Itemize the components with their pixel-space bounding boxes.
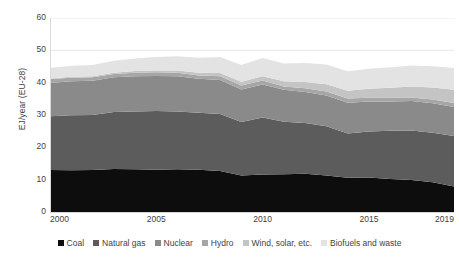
x-tick-label: 2019: [434, 214, 454, 224]
legend-item[interactable]: Biofuels and waste: [321, 238, 401, 248]
y-tick-label: 50: [2, 45, 46, 54]
legend-label: Natural gas: [102, 238, 145, 248]
legend-item[interactable]: Natural gas: [93, 238, 145, 248]
legend-label: Hydro: [211, 238, 234, 248]
legend-item[interactable]: Nuclear: [155, 238, 193, 248]
legend-swatch-icon: [321, 240, 327, 246]
legend-label: Coal: [67, 238, 84, 248]
legend-swatch-icon: [243, 240, 249, 246]
y-axis-tick-labels: 0102030405060: [0, 18, 46, 212]
legend-swatch-icon: [202, 240, 208, 246]
legend-swatch-icon: [93, 240, 99, 246]
x-tick-label: 2005: [136, 214, 176, 224]
x-tick-label: 2000: [50, 214, 69, 224]
legend-swatch-icon: [58, 240, 64, 246]
y-tick-label: 0: [2, 207, 46, 216]
x-tick-label: 2015: [349, 214, 389, 224]
y-tick-label: 10: [2, 175, 46, 184]
legend-item[interactable]: Coal: [58, 238, 84, 248]
y-tick-label: 40: [2, 78, 46, 87]
y-tick-label: 30: [2, 110, 46, 119]
x-axis-line: [50, 212, 454, 213]
legend-label: Nuclear: [164, 238, 193, 248]
legend-swatch-icon: [155, 240, 161, 246]
legend-label: Biofuels and waste: [330, 238, 401, 248]
plot-svg: [50, 18, 454, 212]
y-tick-label: 60: [2, 13, 46, 22]
legend-label: Wind, solar, etc.: [252, 238, 312, 248]
legend-item[interactable]: Wind, solar, etc.: [243, 238, 312, 248]
y-tick-label: 20: [2, 142, 46, 151]
legend-item[interactable]: Hydro: [202, 238, 234, 248]
x-axis-tick-labels: 20002005201020152019: [50, 214, 454, 228]
chart-legend: CoalNatural gasNuclearHydroWind, solar, …: [0, 235, 459, 251]
stacked-area-chart: EJ/year (EU-28) 0102030405060 2000200520…: [0, 0, 459, 258]
plot-area: [50, 18, 454, 212]
x-tick-label: 2010: [243, 214, 283, 224]
y-axis-line: [50, 18, 51, 212]
